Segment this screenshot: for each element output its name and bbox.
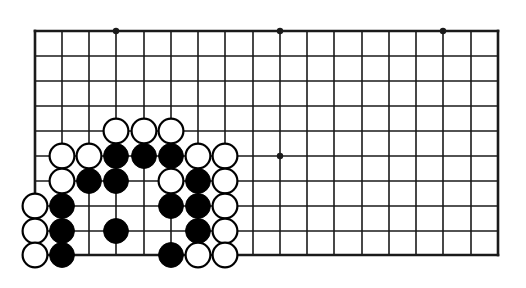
white-stone[interactable]: [23, 243, 48, 268]
white-stone[interactable]: [186, 243, 211, 268]
white-stone[interactable]: [104, 119, 129, 144]
black-stone[interactable]: [50, 219, 75, 244]
black-stone[interactable]: [186, 194, 211, 219]
star-point: [277, 28, 283, 34]
white-stone[interactable]: [159, 169, 184, 194]
white-stone[interactable]: [213, 194, 238, 219]
go-board-canvas: [0, 0, 526, 288]
white-stone[interactable]: [213, 219, 238, 244]
white-stone[interactable]: [213, 169, 238, 194]
go-board-diagram: [0, 0, 526, 288]
black-stone[interactable]: [77, 169, 102, 194]
black-stone[interactable]: [159, 194, 184, 219]
white-stone[interactable]: [132, 119, 157, 144]
black-stone[interactable]: [186, 169, 211, 194]
board-background: [0, 0, 526, 288]
star-point: [440, 28, 446, 34]
white-stone[interactable]: [23, 219, 48, 244]
star-point: [113, 28, 119, 34]
white-stone[interactable]: [50, 144, 75, 169]
black-stone[interactable]: [132, 144, 157, 169]
black-stone[interactable]: [104, 219, 129, 244]
black-stone[interactable]: [159, 144, 184, 169]
white-stone[interactable]: [159, 119, 184, 144]
black-stone[interactable]: [186, 219, 211, 244]
star-point: [277, 153, 283, 159]
black-stone[interactable]: [159, 243, 184, 268]
black-stone[interactable]: [50, 194, 75, 219]
white-stone[interactable]: [213, 144, 238, 169]
black-stone[interactable]: [104, 144, 129, 169]
white-stone[interactable]: [23, 194, 48, 219]
black-stone[interactable]: [50, 243, 75, 268]
white-stone[interactable]: [186, 144, 211, 169]
white-stone[interactable]: [77, 144, 102, 169]
white-stone[interactable]: [50, 169, 75, 194]
white-stone[interactable]: [213, 243, 238, 268]
black-stone[interactable]: [104, 169, 129, 194]
